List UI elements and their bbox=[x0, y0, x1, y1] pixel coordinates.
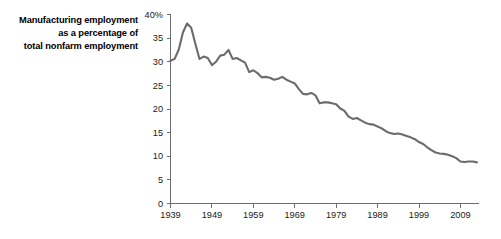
y-tick-label-0: 0 bbox=[158, 199, 163, 209]
x-axis-ticks bbox=[171, 204, 461, 208]
chart-figure: Manufacturing employment as a percentage… bbox=[0, 0, 501, 239]
y-tick-label-15: 15 bbox=[153, 128, 163, 138]
data-series-line bbox=[171, 23, 477, 162]
x-tick-label-1979: 1979 bbox=[326, 210, 346, 220]
y-tick-label-20: 20 bbox=[153, 104, 163, 114]
x-axis: 1939 1949 1959 1969 1979 1989 1999 2009 bbox=[160, 204, 478, 221]
chart-title-line-1: Manufacturing employment bbox=[4, 14, 138, 27]
y-tick-label-30: 30 bbox=[153, 57, 163, 67]
y-axis: 0 5 10 15 20 25 30 35 40% bbox=[145, 10, 171, 209]
chart-title: Manufacturing employment as a percentage… bbox=[4, 14, 138, 54]
y-axis-labels: 0 5 10 15 20 25 30 35 40% bbox=[145, 10, 163, 209]
y-tick-label-35: 35 bbox=[153, 33, 163, 43]
x-tick-label-1949: 1949 bbox=[202, 210, 222, 220]
x-tick-label-1939: 1939 bbox=[160, 210, 180, 220]
y-axis-ticks bbox=[167, 15, 171, 204]
chart-title-line-3: total nonfarm employment bbox=[4, 40, 138, 53]
y-tick-label-5: 5 bbox=[158, 175, 163, 185]
x-tick-label-1969: 1969 bbox=[284, 210, 304, 220]
x-axis-labels: 1939 1949 1959 1969 1979 1989 1999 2009 bbox=[160, 210, 470, 220]
x-tick-label-2009: 2009 bbox=[450, 210, 470, 220]
x-tick-label-1999: 1999 bbox=[409, 210, 429, 220]
chart-title-line-2: as a percentage of bbox=[4, 27, 138, 40]
y-tick-label-40: 40% bbox=[145, 10, 163, 20]
x-tick-label-1989: 1989 bbox=[367, 210, 387, 220]
y-tick-label-10: 10 bbox=[153, 151, 163, 161]
y-tick-label-25: 25 bbox=[153, 81, 163, 91]
x-tick-label-1959: 1959 bbox=[243, 210, 263, 220]
